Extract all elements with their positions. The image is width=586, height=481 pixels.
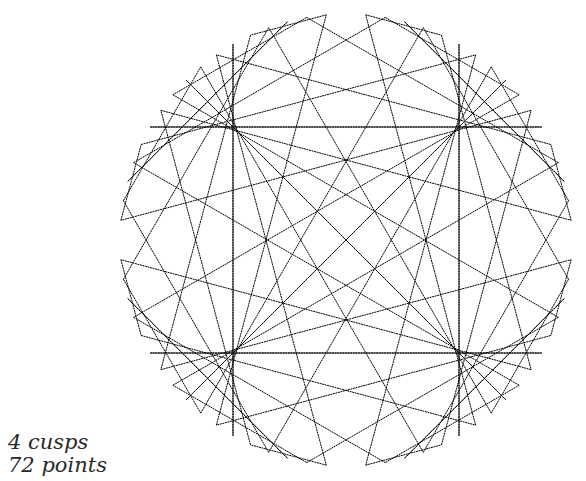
chord-line <box>121 260 141 336</box>
chord-line <box>250 445 326 465</box>
chord-lines <box>121 15 571 465</box>
chord-line <box>250 15 326 35</box>
chord-line <box>491 279 568 413</box>
chord-line <box>123 28 268 280</box>
chord-line <box>161 110 251 444</box>
chord-line <box>161 35 251 369</box>
points-label: 72 points <box>8 455 107 476</box>
chord-line <box>123 67 200 201</box>
chord-line <box>442 35 532 369</box>
chord-line <box>385 17 519 94</box>
cusps-label: 4 cusps <box>8 432 88 453</box>
chord-line <box>366 445 442 465</box>
chord-line <box>141 336 475 426</box>
chord-line <box>216 336 550 426</box>
chord-line <box>423 28 568 280</box>
chord-line <box>216 55 550 145</box>
chord-line <box>134 317 386 462</box>
chord-line <box>173 385 307 462</box>
chord-line <box>121 144 141 220</box>
chord-line <box>307 17 559 162</box>
chord-line <box>141 55 475 145</box>
chord-line <box>366 15 442 35</box>
chord-line <box>551 260 571 336</box>
chord-line <box>123 279 200 413</box>
chord-line <box>423 201 568 453</box>
chord-line <box>442 110 532 444</box>
chord-line <box>123 201 268 453</box>
chord-diagram <box>0 0 586 481</box>
chord-line <box>307 317 559 462</box>
chord-line <box>385 385 519 462</box>
chord-line <box>134 17 386 162</box>
chord-line <box>173 17 307 94</box>
chord-line <box>491 67 568 201</box>
chord-line <box>551 144 571 220</box>
